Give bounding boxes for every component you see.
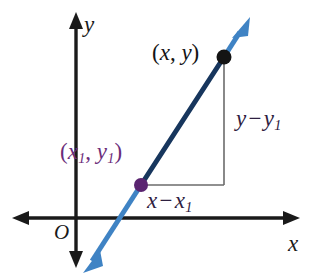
run-second-subscript: 1 bbox=[185, 199, 192, 215]
x-axis-arrow-left-icon bbox=[12, 211, 29, 225]
point-x1y1-second-var: y bbox=[97, 139, 107, 164]
line-arrow-upper-icon bbox=[232, 17, 250, 38]
point-x1y1-separator: , bbox=[85, 139, 97, 164]
rise-leg-label: y−y1 bbox=[236, 107, 281, 130]
point-xy-open-paren: ( bbox=[152, 40, 160, 65]
rise-second-subscript: 1 bbox=[274, 117, 281, 133]
point-xy-label: (x, y) bbox=[152, 41, 199, 64]
y-axis-label: y bbox=[84, 13, 94, 36]
x-axis-label: x bbox=[288, 232, 298, 255]
run-first-var: x bbox=[147, 188, 157, 213]
point-x1y1-second-subscript: 1 bbox=[107, 150, 114, 166]
line-ray-lower bbox=[92, 185, 141, 261]
point-xy-dot bbox=[217, 50, 232, 65]
point-x1y1-first-subscript: 1 bbox=[78, 150, 85, 166]
point-xy-separator: , bbox=[170, 40, 182, 65]
line-segment-between-points bbox=[141, 57, 224, 185]
run-second-var: x bbox=[175, 188, 185, 213]
point-xy-close-paren: ) bbox=[192, 40, 200, 65]
origin-label: O bbox=[54, 222, 69, 243]
rise-minus-operator: − bbox=[246, 106, 264, 131]
point-xy-first-var: x bbox=[160, 40, 170, 65]
point-x1y1-close-paren: ) bbox=[114, 139, 122, 164]
run-leg-label: x−x1 bbox=[147, 189, 192, 212]
rise-second-var: y bbox=[264, 106, 274, 131]
point-x1y1-label: (x1, y1) bbox=[60, 140, 122, 163]
point-x1y1-open-paren: ( bbox=[60, 139, 68, 164]
y-axis-arrow-up-icon bbox=[69, 12, 83, 29]
run-minus-operator: − bbox=[157, 188, 175, 213]
point-x1y1-first-var: x bbox=[68, 139, 78, 164]
y-axis-arrow-down-icon bbox=[69, 251, 83, 268]
point-xy-second-var: y bbox=[181, 40, 191, 65]
point-x1y1-dot bbox=[134, 178, 148, 192]
rise-first-var: y bbox=[236, 106, 246, 131]
coordinate-plane-figure: y x O (x, y) (x1, y1) y−y1 x−x1 bbox=[0, 0, 314, 280]
line-arrow-lower-icon bbox=[83, 250, 103, 273]
x-axis-arrow-right-icon bbox=[283, 211, 300, 225]
